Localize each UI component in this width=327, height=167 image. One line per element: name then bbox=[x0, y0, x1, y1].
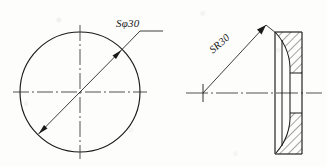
section-view-group bbox=[186, 25, 322, 154]
radius-dimension-line bbox=[203, 25, 266, 93]
drawing-sheet: Sφ30 SR30 bbox=[0, 0, 327, 167]
front-view-group bbox=[13, 25, 163, 159]
radius-leader-line bbox=[266, 25, 276, 33]
sphere-diameter-label: Sφ30 bbox=[116, 17, 139, 29]
drawing-canvas bbox=[0, 0, 327, 167]
diameter-leader-line bbox=[122, 31, 141, 50]
